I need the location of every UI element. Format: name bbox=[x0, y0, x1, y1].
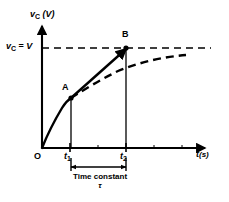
tick-label-t1-subscript: 1 bbox=[67, 155, 71, 162]
y-axis-label-unit: (V) bbox=[43, 9, 55, 19]
y-axis-label: vC (V) bbox=[30, 10, 55, 20]
caption-tau-symbol: τ bbox=[62, 181, 138, 190]
y-axis-label-subscript: C bbox=[35, 13, 40, 20]
point-b-label: B bbox=[122, 30, 129, 39]
origin-label: O bbox=[34, 152, 41, 161]
tick-label-t2-subscript: 2 bbox=[123, 155, 127, 162]
asymptote-label-value: V bbox=[26, 41, 32, 51]
point-a-marker bbox=[68, 95, 73, 100]
capacitor-charging-figure: vC (V) vC = V A B O t1 t2 t(s) Time cons… bbox=[0, 0, 229, 202]
time-constant-span bbox=[71, 158, 126, 171]
caption-line-2: constant bbox=[94, 172, 127, 181]
tick-label-t1: t1 bbox=[64, 152, 71, 162]
charging-curve-dashed bbox=[71, 55, 186, 98]
x-axis-label-unit: (s) bbox=[199, 150, 209, 159]
caption-line-1: Time bbox=[73, 172, 92, 181]
asymptote-label-equals: = bbox=[16, 41, 26, 51]
charging-curve-solid bbox=[42, 98, 71, 148]
tangent-line-a-to-b bbox=[71, 49, 126, 98]
tick-label-t2: t2 bbox=[120, 152, 127, 162]
x-axis-label: t(s) bbox=[196, 150, 209, 159]
point-b-marker bbox=[123, 45, 128, 50]
asymptote-label: vC = V bbox=[6, 42, 32, 52]
point-a-label: A bbox=[62, 83, 69, 92]
time-constant-caption: Time constant τ bbox=[62, 172, 138, 190]
